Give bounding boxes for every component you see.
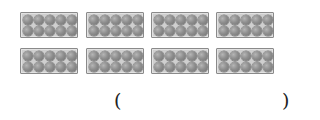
egg-icon xyxy=(263,62,273,72)
egg-icon xyxy=(100,26,110,36)
egg-icon xyxy=(165,62,175,72)
egg-icon xyxy=(165,26,175,36)
egg-icon xyxy=(67,15,77,25)
egg-icon xyxy=(230,15,240,25)
egg-icon xyxy=(45,26,55,36)
egg-icon xyxy=(45,62,55,72)
egg-icon xyxy=(252,26,262,36)
egg-icon xyxy=(219,51,229,61)
egg-icon xyxy=(23,62,33,72)
egg-icon xyxy=(154,15,164,25)
egg-icon xyxy=(89,51,99,61)
egg-icon xyxy=(241,62,251,72)
egg-icon xyxy=(241,15,251,25)
egg-tray xyxy=(86,48,144,74)
egg-icon xyxy=(111,62,121,72)
egg-icon xyxy=(198,26,208,36)
egg-icon xyxy=(122,15,132,25)
egg-icon xyxy=(252,51,262,61)
egg-icon xyxy=(89,26,99,36)
egg-icon xyxy=(252,62,262,72)
answer-open-paren: ( xyxy=(114,89,121,111)
egg-tray xyxy=(216,48,274,74)
egg-icon xyxy=(34,62,44,72)
answer-close-paren: ) xyxy=(282,89,289,111)
egg-icon xyxy=(111,15,121,25)
egg-icon xyxy=(219,15,229,25)
egg-icon xyxy=(187,62,197,72)
egg-tray xyxy=(20,48,78,74)
egg-icon xyxy=(56,15,66,25)
egg-icon xyxy=(45,15,55,25)
egg-icon xyxy=(122,62,132,72)
egg-icon xyxy=(187,15,197,25)
egg-icon xyxy=(133,62,143,72)
egg-icon xyxy=(45,51,55,61)
egg-icon xyxy=(23,26,33,36)
egg-icon xyxy=(165,15,175,25)
egg-icon xyxy=(100,15,110,25)
egg-icon xyxy=(176,26,186,36)
egg-icon xyxy=(230,62,240,72)
egg-icon xyxy=(133,51,143,61)
egg-icon xyxy=(241,51,251,61)
egg-icon xyxy=(187,51,197,61)
egg-icon xyxy=(89,15,99,25)
egg-tray xyxy=(20,12,78,38)
egg-icon xyxy=(230,51,240,61)
egg-tray xyxy=(86,12,144,38)
egg-icon xyxy=(154,62,164,72)
egg-icon xyxy=(111,51,121,61)
egg-tray xyxy=(151,48,209,74)
egg-icon xyxy=(198,15,208,25)
egg-icon xyxy=(34,15,44,25)
egg-icon xyxy=(198,62,208,72)
egg-tray xyxy=(216,12,274,38)
egg-icon xyxy=(241,26,251,36)
egg-icon xyxy=(34,51,44,61)
egg-icon xyxy=(263,15,273,25)
egg-icon xyxy=(133,15,143,25)
egg-icon xyxy=(219,26,229,36)
egg-icon xyxy=(23,51,33,61)
egg-icon xyxy=(133,26,143,36)
egg-tray xyxy=(151,12,209,38)
egg-icon xyxy=(176,62,186,72)
egg-icon xyxy=(122,26,132,36)
egg-icon xyxy=(111,26,121,36)
egg-icon xyxy=(56,26,66,36)
egg-icon xyxy=(100,51,110,61)
egg-icon xyxy=(100,62,110,72)
egg-icon xyxy=(176,15,186,25)
egg-icon xyxy=(154,26,164,36)
egg-icon xyxy=(67,51,77,61)
egg-icon xyxy=(67,62,77,72)
egg-icon xyxy=(198,51,208,61)
answer-blank[interactable] xyxy=(126,92,276,112)
egg-icon xyxy=(34,26,44,36)
egg-icon xyxy=(165,51,175,61)
egg-icon xyxy=(67,26,77,36)
egg-icon xyxy=(154,51,164,61)
egg-icon xyxy=(219,62,229,72)
egg-icon xyxy=(56,62,66,72)
egg-icon xyxy=(56,51,66,61)
egg-icon xyxy=(187,26,197,36)
egg-icon xyxy=(122,51,132,61)
egg-icon xyxy=(252,15,262,25)
egg-icon xyxy=(230,26,240,36)
egg-icon xyxy=(176,51,186,61)
egg-icon xyxy=(89,62,99,72)
egg-icon xyxy=(23,15,33,25)
egg-icon xyxy=(263,51,273,61)
egg-icon xyxy=(263,26,273,36)
